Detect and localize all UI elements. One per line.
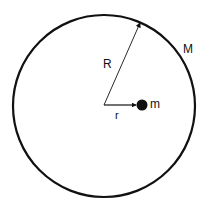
label-r: r <box>115 109 119 121</box>
point-mass <box>137 100 148 111</box>
label-M: M <box>183 42 193 56</box>
label-R: R <box>103 57 112 71</box>
spherical-shell <box>13 15 195 197</box>
label-m: m <box>150 97 160 111</box>
shell-diagram: R r M m <box>0 0 209 207</box>
